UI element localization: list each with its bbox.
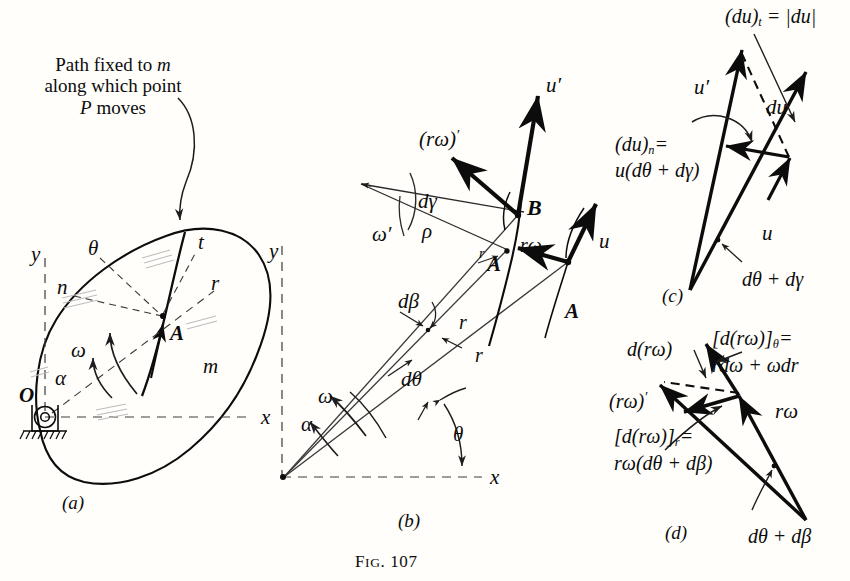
panel-c-label-du-t: (du)t = |du| bbox=[725, 5, 816, 30]
panel-c-u-vector bbox=[690, 72, 806, 290]
panel-a-label-t: t bbox=[198, 231, 204, 255]
panel-b-label-omega-prime: ω′ bbox=[372, 223, 391, 247]
panel-d-label-rw-prime: (rω)′ bbox=[609, 390, 647, 412]
alpha-curved-arrow bbox=[93, 358, 112, 398]
note-line3-P: P bbox=[80, 97, 92, 118]
panel-b-label-r-small-upper: r bbox=[479, 246, 484, 262]
panel-a-label-theta: θ bbox=[88, 237, 98, 261]
drw-r-equals: = bbox=[680, 425, 694, 447]
panel-d-drw-leader bbox=[694, 350, 706, 378]
ground-hatching bbox=[20, 431, 66, 439]
panel-b-label-u-prime: u′ bbox=[546, 74, 561, 98]
panel-d-drw-r-vector bbox=[684, 396, 739, 412]
panel-a-label-x: x bbox=[261, 406, 270, 430]
panel-d-drw-theta-line2: rdω + ωdr bbox=[712, 353, 799, 378]
panel-a-note-line1: Path fixed to m bbox=[18, 54, 208, 75]
rw-prime-vector-at-B bbox=[452, 158, 518, 215]
path-direction-arrow bbox=[151, 324, 163, 378]
panel-b-graphics bbox=[280, 96, 596, 480]
radius-to-A-upper bbox=[284, 251, 506, 477]
panel-b-label-A-upper: A bbox=[487, 253, 501, 277]
rw-prime-prime: ′ bbox=[456, 127, 459, 143]
panel-a-caption: (a) bbox=[62, 492, 84, 513]
note-line1-text: Path fixed to bbox=[55, 54, 157, 75]
panel-b-label-dgamma: dγ bbox=[418, 190, 437, 214]
panel-c-du-n-vector bbox=[726, 146, 789, 157]
panel-a-note: Path fixed to m along which point P move… bbox=[18, 54, 208, 118]
panel-b-label-alpha: α bbox=[301, 413, 312, 437]
panel-b-label-rw: rω bbox=[520, 234, 542, 256]
panel-d-rw-prime-base: (rω) bbox=[609, 390, 644, 412]
panel-b-label-rho: ρ bbox=[422, 220, 432, 244]
dtheta-bottom-arrow bbox=[418, 402, 428, 420]
point-A-marker bbox=[160, 313, 166, 319]
panel-c-caption: (c) bbox=[662, 285, 683, 306]
panel-a-label-r: r bbox=[211, 272, 219, 296]
panel-c-label-angle: dθ + dγ bbox=[742, 268, 803, 290]
dbeta-dot bbox=[426, 328, 431, 333]
panel-c-graphics bbox=[690, 34, 806, 290]
panel-b-omega-arrow-2 bbox=[350, 392, 386, 438]
panel-d-label-drw-r: [d(rω)]r= rω(dθ + dβ) bbox=[614, 424, 713, 476]
normal-axis-n-dashed bbox=[74, 296, 162, 316]
figure-caption-F: F bbox=[355, 552, 365, 571]
dgamma-arc bbox=[408, 173, 416, 230]
panel-a-label-n: n bbox=[57, 276, 68, 300]
panel-a-label-y: y bbox=[31, 243, 40, 267]
panel-b-label-y: y bbox=[269, 240, 278, 264]
du-n-equals: = bbox=[655, 133, 669, 155]
figure-caption: FIG. 107 bbox=[355, 552, 418, 571]
panel-a-label-omega: ω bbox=[71, 339, 86, 363]
panel-d-angle-leader bbox=[752, 470, 772, 510]
panel-d-angle-dot bbox=[772, 464, 777, 469]
u-vector-at-A-lower bbox=[568, 204, 596, 262]
du-t-base: (du) bbox=[725, 5, 758, 27]
du-t-equals: = |du| bbox=[762, 5, 817, 27]
drw-r-base: [d(rω)] bbox=[614, 425, 675, 447]
panel-b-label-A-lower: A bbox=[565, 300, 579, 324]
theta-leader-dashed bbox=[100, 258, 162, 316]
panel-b-label-x: x bbox=[490, 466, 499, 490]
panel-d-drw-dashed bbox=[664, 382, 739, 393]
panel-d-label-angle: dθ + dβ bbox=[748, 525, 811, 547]
panel-b-label-u: u bbox=[599, 230, 610, 254]
panel-c-angle-dot bbox=[716, 238, 721, 243]
note-line3-text: moves bbox=[92, 97, 146, 118]
panel-a-label-A: A bbox=[170, 322, 184, 346]
panel-c-du-n-line1: (du)n= bbox=[615, 132, 700, 158]
panel-d-label-drw-theta: [d(rω)]θ= rdω + ωdr bbox=[712, 326, 799, 378]
figure-caption-number: . 107 bbox=[381, 552, 418, 571]
panel-b-label-r-low: r bbox=[475, 344, 483, 366]
panel-b-label-dbeta: dβ bbox=[398, 290, 419, 314]
panel-a-label-alpha: α bbox=[55, 367, 66, 391]
panel-b-origin-marker bbox=[280, 474, 286, 480]
panel-b-label-B: B bbox=[527, 196, 542, 221]
panel-d-label-drw: d(rω) bbox=[627, 338, 672, 360]
panel-a-note-line2: along which point bbox=[18, 75, 208, 96]
panel-c-label-du-n: (du)n= u(dθ + dγ) bbox=[615, 132, 700, 182]
figure-107-page: Path fixed to m along which point P move… bbox=[0, 0, 850, 581]
panel-c-label-u: u bbox=[762, 222, 773, 246]
note-line1-m: m bbox=[157, 54, 171, 75]
panel-b-label-rw-prime: (rω)′ bbox=[419, 127, 459, 152]
dtheta-upper-arrow bbox=[442, 338, 462, 348]
panel-b-theta-arc-upper bbox=[440, 388, 466, 400]
drw-theta-equals: = bbox=[779, 327, 793, 349]
panel-c-label-u-prime: u′ bbox=[694, 76, 709, 100]
point-A-upper-marker bbox=[504, 248, 509, 253]
dbeta-left-arrow bbox=[400, 312, 423, 326]
panel-c-label-du: du bbox=[766, 96, 787, 120]
figure-caption-ig: IG bbox=[365, 555, 380, 570]
panel-a-label-m: m bbox=[203, 355, 218, 379]
rw-prime-base: (rω) bbox=[419, 127, 456, 151]
radius-to-A-lower bbox=[284, 262, 568, 477]
panel-d-rw-prime-prime: ′ bbox=[644, 390, 647, 405]
panel-b-label-omega: ω bbox=[318, 385, 333, 409]
panel-d-drw-r-line1: [d(rω)]r= bbox=[614, 424, 713, 451]
panel-a-label-O: O bbox=[19, 384, 34, 408]
panel-b-caption: (b) bbox=[398, 510, 420, 531]
drw-theta-base: [d(rω)] bbox=[712, 327, 773, 349]
panel-b-label-r-mid: r bbox=[459, 311, 467, 333]
panel-a-note-line3: P moves bbox=[18, 97, 208, 118]
panel-b-label-dtheta: dθ bbox=[401, 368, 422, 392]
